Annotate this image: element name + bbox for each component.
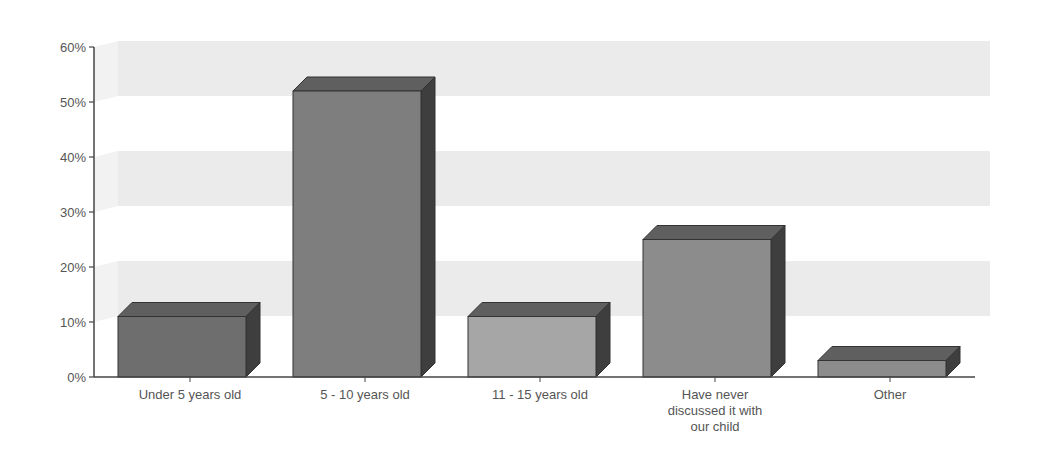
bars — [118, 77, 960, 377]
band-side — [94, 261, 118, 322]
band-side — [94, 41, 118, 102]
x-category-label: 5 - 10 years old — [320, 387, 410, 402]
x-category-label: Under 5 years old — [139, 387, 242, 402]
band-side — [94, 151, 118, 212]
bar — [818, 347, 960, 378]
x-category-label: 11 - 15 years old — [492, 387, 588, 402]
bar — [468, 303, 610, 378]
bar-chart: 0%10%20%30%40%50%60% Under 5 years old5 … — [0, 0, 1041, 464]
bar — [293, 77, 435, 377]
y-tick-label: 30% — [60, 205, 86, 220]
y-tick-label: 60% — [60, 40, 86, 55]
bar — [118, 303, 260, 378]
y-tick-label: 40% — [60, 150, 86, 165]
y-tick-label: 20% — [60, 260, 86, 275]
y-tick-label: 10% — [60, 315, 86, 330]
background-bands — [94, 41, 990, 322]
x-category-label: discussed it with — [668, 403, 763, 418]
x-category-label: Other — [874, 387, 907, 402]
y-axis: 0%10%20%30%40%50%60% — [60, 40, 94, 385]
band — [118, 41, 990, 96]
x-category-label: our child — [690, 419, 739, 434]
x-axis: Under 5 years old5 - 10 years old11 - 15… — [94, 377, 975, 434]
bar — [643, 226, 785, 378]
band — [118, 151, 990, 206]
x-category-label: Have never — [682, 387, 749, 402]
y-tick-label: 0% — [67, 370, 86, 385]
y-tick-label: 50% — [60, 95, 86, 110]
